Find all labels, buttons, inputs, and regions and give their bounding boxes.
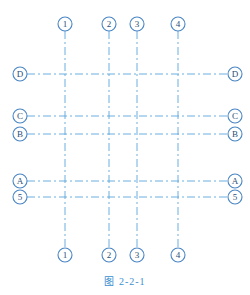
column-bubble-bottom-1: 1 (58, 248, 72, 262)
svg-text:A: A (232, 176, 239, 186)
row-bubble-left-C: C (13, 109, 27, 123)
row-bubble-right-5: 5 (228, 190, 242, 204)
svg-text:B: B (17, 129, 23, 139)
row-bubble-right-C: C (228, 109, 242, 123)
svg-text:5: 5 (18, 192, 23, 202)
row-bubble-left-B: B (13, 127, 27, 141)
column-bubble-top-4: 4 (171, 17, 185, 31)
figure-caption: 图 2-2-1 (0, 273, 250, 288)
column-bubble-top-1: 1 (58, 17, 72, 31)
axis-grid-diagram: 11223344DDCCBBAA55 图 2-2-1 (0, 0, 250, 295)
column-bubble-bottom-3: 3 (130, 248, 144, 262)
svg-text:3: 3 (135, 19, 140, 29)
svg-text:C: C (17, 111, 23, 121)
svg-text:3: 3 (135, 250, 140, 260)
svg-text:1: 1 (63, 19, 68, 29)
svg-text:A: A (17, 176, 24, 186)
column-bubble-top-3: 3 (130, 17, 144, 31)
svg-text:4: 4 (176, 19, 181, 29)
row-bubble-left-A: A (13, 174, 27, 188)
grid-lines: 11223344DDCCBBAA55 (0, 0, 250, 295)
row-bubble-left-5: 5 (13, 190, 27, 204)
svg-text:B: B (232, 129, 238, 139)
svg-text:1: 1 (63, 250, 68, 260)
row-bubble-right-D: D (228, 67, 242, 81)
svg-text:5: 5 (233, 192, 238, 202)
svg-text:2: 2 (107, 19, 112, 29)
row-bubble-right-B: B (228, 127, 242, 141)
column-bubble-top-2: 2 (102, 17, 116, 31)
svg-text:2: 2 (107, 250, 112, 260)
row-bubble-left-D: D (13, 67, 27, 81)
row-bubble-right-A: A (228, 174, 242, 188)
svg-text:D: D (17, 69, 24, 79)
column-bubble-bottom-2: 2 (102, 248, 116, 262)
column-bubble-bottom-4: 4 (171, 248, 185, 262)
svg-text:C: C (232, 111, 238, 121)
svg-text:4: 4 (176, 250, 181, 260)
svg-text:D: D (232, 69, 239, 79)
